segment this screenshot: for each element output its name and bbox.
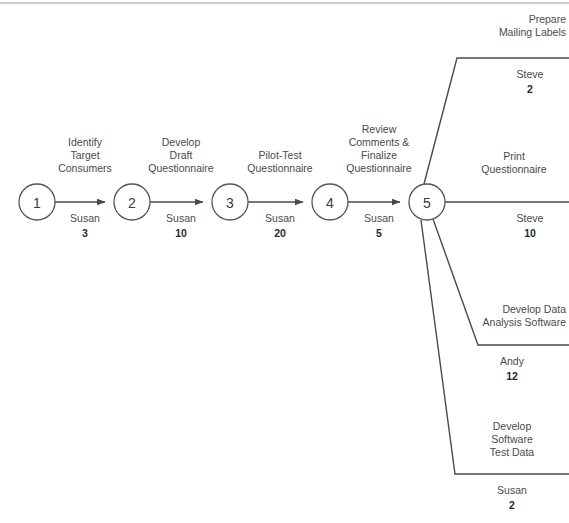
branch-activity-labels: Prepare Mailing Labels Steve 2 Print Que… [481, 13, 566, 511]
activity-name-line: Develop [493, 420, 532, 432]
activity-name-line: Analysis Software [483, 316, 567, 328]
activity-duration: 10 [524, 227, 536, 239]
node-4[interactable]: 4 [312, 184, 348, 220]
activity-duration: 20 [274, 227, 286, 239]
activity-name-line: Develop [162, 136, 201, 148]
activity-name-line: Questionnaire [481, 163, 547, 175]
activity-name-line: Pilot-Test [258, 149, 301, 161]
node-2-label: 2 [128, 195, 136, 211]
activity-name-line: Draft [170, 149, 193, 161]
activity-duration: 12 [506, 370, 518, 382]
node-5-label: 5 [423, 195, 431, 211]
activity-resource: Steve [517, 68, 544, 80]
activity-print-questionnaire: Print Questionnaire Steve 10 [481, 150, 547, 239]
activity-name-line: Comments & [349, 136, 410, 148]
activity-duration: 2 [527, 83, 533, 95]
activity-name-line: Consumers [58, 162, 112, 174]
node-3-label: 3 [226, 195, 234, 211]
activity-resource: Susan [70, 212, 100, 224]
node-5[interactable]: 5 [409, 184, 445, 220]
activity-name-line: Identify [68, 136, 103, 148]
activity-name-line: Questionnaire [148, 162, 214, 174]
activity-name-line: Finalize [361, 149, 397, 161]
activity-duration: 5 [376, 227, 382, 239]
activity-name-line: Test Data [490, 446, 535, 458]
activity-resource: Susan [265, 212, 295, 224]
activity-review-comments-finalize-questionnaire: Review Comments & Finalize Questionnaire… [346, 123, 412, 239]
node-1[interactable]: 1 [19, 184, 55, 220]
activity-resource: Susan [497, 484, 527, 496]
activity-name-line: Software [491, 433, 533, 445]
activity-name-line: Questionnaire [346, 162, 412, 174]
node-3[interactable]: 3 [212, 184, 248, 220]
activity-name-line: Prepare [529, 13, 567, 25]
activity-resource: Susan [166, 212, 196, 224]
activity-duration: 2 [509, 499, 515, 511]
activity-develop-data-analysis-software: Develop Data Analysis Software Andy 12 [483, 303, 567, 382]
activity-develop-draft-questionnaire: Develop Draft Questionnaire Susan 10 [148, 136, 214, 239]
activity-resource: Andy [500, 355, 525, 367]
sequential-activity-labels: Identify Target Consumers Susan 3 Develo… [58, 123, 412, 239]
activity-resource: Susan [364, 212, 394, 224]
activity-resource: Steve [517, 212, 544, 224]
activity-duration: 3 [82, 227, 88, 239]
activity-prepare-mailing-labels: Prepare Mailing Labels Steve 2 [499, 13, 566, 95]
branch-connectors [421, 58, 569, 474]
activity-name-line: Target [70, 149, 99, 161]
node-2[interactable]: 2 [114, 184, 150, 220]
diagram-page: 1 2 3 4 5 Identify Tar [0, 0, 569, 523]
activity-name-line: Print [503, 150, 525, 162]
activity-name-line: Mailing Labels [499, 26, 566, 38]
activity-name-line: Questionnaire [247, 162, 313, 174]
activity-develop-software-test-data: Develop Software Test Data Susan 2 [490, 420, 535, 511]
node-1-label: 1 [33, 195, 41, 211]
activity-identify-target-consumers: Identify Target Consumers Susan 3 [58, 136, 112, 239]
activity-pilot-test-questionnaire: Pilot-Test Questionnaire Susan 20 [247, 149, 313, 239]
project-network-diagram: 1 2 3 4 5 Identify Tar [0, 0, 569, 523]
activity-name-line: Develop Data [502, 303, 566, 315]
node-4-label: 4 [326, 195, 334, 211]
activity-duration: 10 [175, 227, 187, 239]
activity-name-line: Review [362, 123, 397, 135]
